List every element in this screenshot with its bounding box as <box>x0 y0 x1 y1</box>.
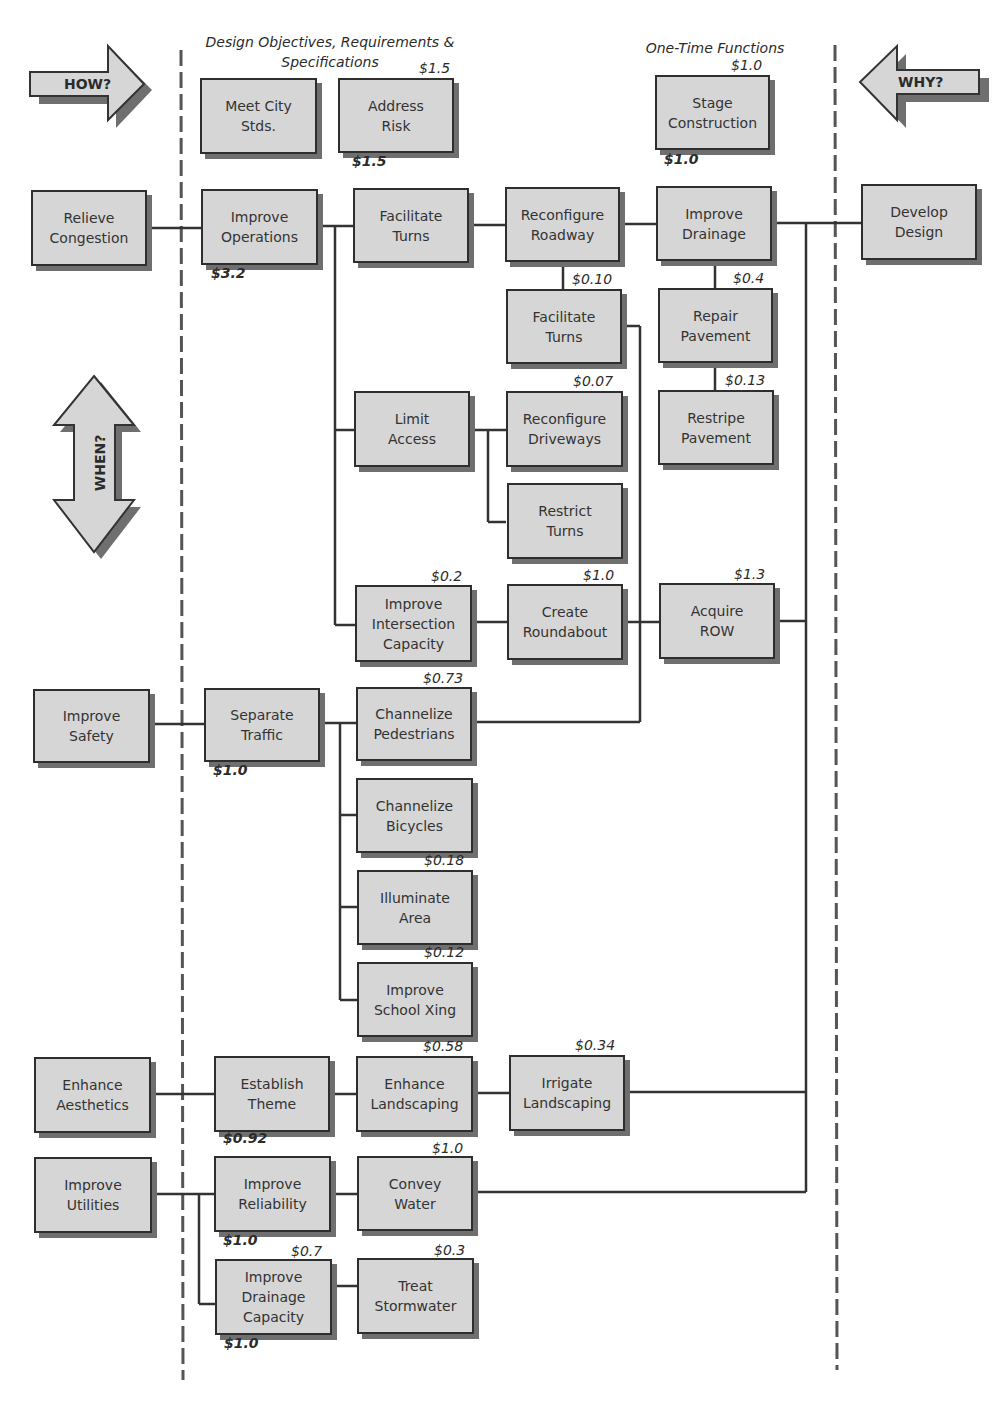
when-label: WHEN? <box>92 435 108 492</box>
box-meet-city-stds[interactable]: Meet City Stds. <box>200 78 317 154</box>
cost-address-risk-top: $1.5 <box>419 60 450 76</box>
box-convey-water[interactable]: Convey Water <box>357 1156 473 1231</box>
cost-improve-drainage-capacity-bottom: $1.0 <box>224 1335 259 1351</box>
why-label: WHY? <box>898 74 943 90</box>
cost-improve-operations: $3.2 <box>211 265 246 281</box>
box-improve-reliability[interactable]: Improve Reliability <box>214 1156 331 1232</box>
cost-improve-reliability: $1.0 <box>223 1232 258 1248</box>
box-reconfigure-roadway[interactable]: Reconfigure Roadway <box>505 187 620 262</box>
box-stage-construction[interactable]: Stage Construction <box>655 75 770 150</box>
box-treat-stormwater[interactable]: Treat Stormwater <box>357 1258 474 1334</box>
box-acquire-row[interactable]: Acquire ROW <box>659 583 775 659</box>
box-enhance-aesthetics[interactable]: Enhance Aesthetics <box>34 1057 151 1133</box>
cost-channelize-pedestrians: $0.73 <box>423 670 463 686</box>
box-channelize-pedestrians[interactable]: Channelize Pedestrians <box>356 687 472 761</box>
how-label: HOW? <box>64 76 111 92</box>
box-restripe-pavement[interactable]: Restripe Pavement <box>658 390 774 465</box>
box-improve-drainage[interactable]: Improve Drainage <box>656 186 772 261</box>
cost-address-risk-bottom: $1.5 <box>352 153 387 169</box>
box-improve-utilities[interactable]: Improve Utilities <box>34 1157 152 1233</box>
cost-facilitate-turns-2: $0.10 <box>572 271 612 287</box>
cost-irrigate-landscaping: $0.34 <box>575 1037 615 1053</box>
box-separate-traffic[interactable]: Separate Traffic <box>204 688 320 762</box>
cost-stage-bottom: $1.0 <box>664 151 699 167</box>
box-reconfigure-driveways[interactable]: Reconfigure Driveways <box>506 391 623 467</box>
box-channelize-bicycles[interactable]: Channelize Bicycles <box>356 778 473 853</box>
box-illuminate-area[interactable]: Illuminate Area <box>357 870 473 945</box>
cost-stage-top: $1.0 <box>731 57 762 73</box>
cost-separate-traffic: $1.0 <box>213 762 248 778</box>
cost-improve-intersection: $0.2 <box>431 568 462 584</box>
cost-establish-theme: $0.92 <box>223 1130 267 1146</box>
cost-improve-school-xing: $0.12 <box>424 944 464 960</box>
box-create-roundabout[interactable]: Create Roundabout <box>507 584 623 660</box>
cost-illuminate-area: $0.18 <box>424 852 464 868</box>
cost-improve-drainage-capacity-top: $0.7 <box>291 1243 322 1259</box>
cost-acquire-row: $1.3 <box>734 566 765 582</box>
box-relieve-congestion[interactable]: Relieve Congestion <box>31 190 147 266</box>
box-address-risk[interactable]: Address Risk <box>338 78 454 153</box>
box-enhance-landscaping[interactable]: Enhance Landscaping <box>356 1056 473 1132</box>
box-irrigate-landscaping[interactable]: Irrigate Landscaping <box>509 1055 625 1131</box>
cost-enhance-landscaping: $0.58 <box>423 1038 463 1054</box>
box-improve-safety[interactable]: Improve Safety <box>33 689 150 763</box>
cost-create-roundabout: $1.0 <box>583 567 614 583</box>
cost-repair-pavement: $0.4 <box>733 270 764 286</box>
one-time-functions-header: One-Time Functions <box>630 38 800 58</box>
box-establish-theme[interactable]: Establish Theme <box>214 1056 330 1132</box>
cost-treat-stormwater: $0.3 <box>434 1242 465 1258</box>
box-develop-design[interactable]: Develop Design <box>861 184 977 260</box>
cost-restripe-pavement: $0.13 <box>725 372 765 388</box>
box-improve-drainage-capacity[interactable]: Improve Drainage Capacity <box>215 1259 332 1335</box>
box-limit-access[interactable]: Limit Access <box>354 391 470 467</box>
box-facilitate-turns[interactable]: Facilitate Turns <box>353 188 469 263</box>
box-repair-pavement[interactable]: Repair Pavement <box>658 288 773 363</box>
box-improve-operations[interactable]: Improve Operations <box>201 189 318 265</box>
box-improve-school-xing[interactable]: Improve School Xing <box>357 962 473 1037</box>
box-restrict-turns[interactable]: Restrict Turns <box>507 483 623 559</box>
box-facilitate-turns-2[interactable]: Facilitate Turns <box>506 289 622 364</box>
cost-reconfigure-driveways: $0.07 <box>573 373 613 389</box>
box-improve-intersection-capacity[interactable]: Improve Intersection Capacity <box>355 585 472 662</box>
cost-convey-water: $1.0 <box>432 1140 463 1156</box>
